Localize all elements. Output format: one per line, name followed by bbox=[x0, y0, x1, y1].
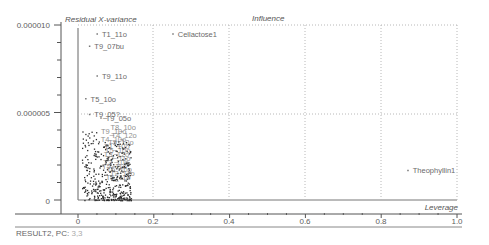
pc-value: 3,3 bbox=[71, 229, 82, 238]
y-tick-label: 0.000010 bbox=[17, 21, 51, 30]
x-tick-label: 0.2 bbox=[147, 217, 159, 226]
y-tick-label: 0 bbox=[46, 197, 51, 206]
influence-plot: 0.000010 0.000005 0 0 0.2 0.4 0.6 0.8 1.… bbox=[0, 0, 489, 245]
y-axis-title: Residual X-variance bbox=[65, 15, 137, 24]
chart-title: Influence bbox=[252, 14, 285, 23]
x-tick-label: 0 bbox=[76, 217, 81, 226]
svg-text:T9_07bu: T9_07bu bbox=[94, 42, 124, 51]
labeled-points: T8_10oT9_10oT4_12oT4_10oT5_12oT1_10oT5_1… bbox=[85, 30, 455, 182]
data-point: T5_10o bbox=[85, 95, 116, 104]
x-tick-label: 0.4 bbox=[223, 217, 235, 226]
y-axis: 0.000010 0.000005 0 bbox=[17, 21, 61, 214]
x-axis-title: Leverage bbox=[425, 203, 459, 212]
svg-text:Theophyllin1: Theophyllin1 bbox=[413, 166, 456, 175]
plot-area: Residual X-variance Influence T8_10oT9_1… bbox=[65, 14, 457, 201]
data-point: T9_11o bbox=[96, 72, 126, 81]
svg-text:T1_11o: T1_11o bbox=[102, 30, 127, 39]
x-axis: 0 0.2 0.4 0.6 0.8 1.0 Leverage bbox=[15, 203, 463, 226]
x-tick-label: 1.0 bbox=[451, 217, 463, 226]
y-tick-label: 0.000005 bbox=[17, 109, 51, 118]
data-point: Theophyllin1 bbox=[407, 166, 455, 175]
result-label: RESULT2, PC: bbox=[16, 229, 69, 238]
svg-text:T9_05o: T9_05o bbox=[106, 114, 131, 123]
data-point: Cellactose1 bbox=[172, 30, 217, 39]
data-point: T9_07bu bbox=[89, 42, 124, 51]
svg-text:T5_11o: T5_11o bbox=[106, 173, 131, 182]
data-point: T9_05o bbox=[100, 114, 131, 123]
x-tick-label: 0.8 bbox=[375, 217, 387, 226]
svg-text:Cellactose1: Cellactose1 bbox=[178, 30, 217, 39]
svg-text:T5_10o: T5_10o bbox=[91, 95, 116, 104]
data-point: T1_11o bbox=[96, 30, 126, 39]
x-tick-label: 0.6 bbox=[299, 217, 311, 226]
status-footer: RESULT2, PC: 3,3 bbox=[16, 229, 83, 238]
svg-text:T9_11o: T9_11o bbox=[102, 72, 127, 81]
gridlines bbox=[78, 25, 457, 200]
